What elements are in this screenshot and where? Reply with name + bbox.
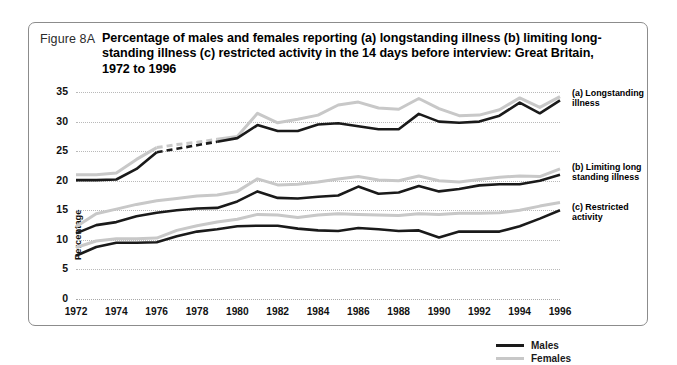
x-tick-label: 1974 xyxy=(95,306,137,317)
series-line-b-males xyxy=(76,175,560,234)
gridline xyxy=(76,299,560,300)
x-tick-label: 1984 xyxy=(297,306,339,317)
legend-item-females: Females xyxy=(496,352,571,365)
y-tick-label: 20 xyxy=(34,174,68,186)
series-line-a-males xyxy=(217,100,560,141)
x-tick-label: 1976 xyxy=(136,306,178,317)
x-tick-label: 1994 xyxy=(499,306,541,317)
legend-swatch-males xyxy=(496,344,524,348)
x-tick-label: 1972 xyxy=(55,306,97,317)
legend-label-males: Males xyxy=(531,340,559,351)
figure-label: Figure 8A xyxy=(40,32,95,46)
series-line-a-females xyxy=(217,97,560,140)
y-tick-label: 0 xyxy=(34,292,68,304)
series-line-c-males xyxy=(76,210,560,256)
x-tick-label: 1990 xyxy=(418,306,460,317)
x-tick-label: 1992 xyxy=(458,306,500,317)
legend-item-males: Males xyxy=(496,339,571,352)
y-tick-label: 5 xyxy=(34,262,68,274)
y-tick-label: 15 xyxy=(34,203,68,215)
y-tick-label: 35 xyxy=(34,85,68,97)
y-tick-label: 25 xyxy=(34,144,68,156)
y-tick-label: 30 xyxy=(34,115,68,127)
annotation-restricted-activity: (c) Restricted activity xyxy=(572,202,654,223)
figure-title: Percentage of males and females reportin… xyxy=(102,31,622,77)
x-tick-label: 1980 xyxy=(216,306,258,317)
x-tick-label: 1982 xyxy=(257,306,299,317)
chart-plot-area: Percentage 05101520253035 19721974197619… xyxy=(76,92,560,299)
chart-lines xyxy=(76,92,560,299)
legend-label-females: Females xyxy=(531,353,571,364)
chart-legend: Males Females xyxy=(496,339,571,365)
annotation-limiting-longstanding-illness: (b) Limiting long standing illness xyxy=(572,162,654,183)
annotation-longstanding-illness: (a) Longstanding illness xyxy=(572,88,654,109)
legend-swatch-females xyxy=(496,357,524,361)
x-tick-label: 1978 xyxy=(176,306,218,317)
y-tick-label: 10 xyxy=(34,233,68,245)
series-line-c-females xyxy=(76,203,560,248)
x-tick-label: 1986 xyxy=(337,306,379,317)
x-tick-label: 1996 xyxy=(539,306,581,317)
x-tick-label: 1988 xyxy=(378,306,420,317)
